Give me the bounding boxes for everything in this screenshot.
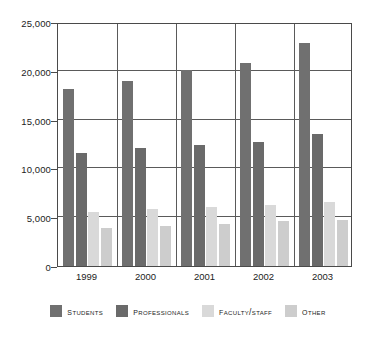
- y-axis-tick-label: 10,000: [3, 164, 51, 175]
- legend-item[interactable]: Students: [50, 305, 103, 317]
- y-axis-tick-label: 0: [3, 262, 51, 273]
- y-axis-tick-label: 15,000: [3, 115, 51, 126]
- y-axis-tick-mark: [51, 267, 57, 268]
- y-axis-tick-mark: [51, 218, 57, 219]
- bar: [135, 148, 146, 266]
- y-axis-tick-label: 5,000: [3, 213, 51, 224]
- x-axis-tick-label: 2002: [253, 271, 274, 282]
- legend-swatch-icon: [50, 305, 62, 317]
- legend-item[interactable]: Professionals: [116, 305, 189, 317]
- y-axis-tick-mark: [51, 23, 57, 24]
- bar-group: [176, 24, 235, 266]
- bar-group: [117, 24, 176, 266]
- bar: [219, 224, 230, 266]
- bar-group: [294, 24, 353, 266]
- bar: [160, 226, 171, 267]
- bar: [253, 142, 264, 266]
- bar: [337, 220, 348, 266]
- bar: [194, 145, 205, 266]
- bar: [324, 202, 335, 266]
- legend-label: Other: [302, 305, 326, 317]
- y-axis-tick-mark: [51, 169, 57, 170]
- x-axis-tick-label: 2000: [135, 271, 156, 282]
- legend-swatch-icon: [285, 305, 297, 317]
- x-axis-tick-label: 2003: [312, 271, 333, 282]
- plot-area: [57, 23, 352, 267]
- y-axis-tick-label: 25,000: [3, 18, 51, 29]
- legend-swatch-icon: [202, 305, 214, 317]
- legend-swatch-icon: [116, 305, 128, 317]
- bar: [147, 209, 158, 266]
- chart-legend: StudentsProfessionalsFaculty/StaffOther: [0, 305, 376, 317]
- legend-item[interactable]: Faculty/Staff: [202, 305, 272, 317]
- bar: [63, 89, 74, 266]
- bar: [181, 70, 192, 266]
- y-axis: 05,00010,00015,00020,00025,000: [0, 0, 51, 346]
- legend-label: Professionals: [133, 305, 189, 317]
- x-axis-tick-label: 1999: [76, 271, 97, 282]
- bar: [206, 207, 217, 266]
- bar: [299, 43, 310, 266]
- bar-group: [58, 24, 117, 266]
- bar: [88, 212, 99, 266]
- bar: [278, 221, 289, 266]
- bar: [265, 205, 276, 266]
- bar: [312, 134, 323, 266]
- bar: [122, 81, 133, 266]
- y-axis-tick-label: 20,000: [3, 66, 51, 77]
- legend-label: Faculty/Staff: [219, 305, 272, 317]
- x-axis-tick-label: 2001: [194, 271, 215, 282]
- legend-item[interactable]: Other: [285, 305, 326, 317]
- bar-chart: 05,00010,00015,00020,00025,000 199920002…: [0, 0, 376, 346]
- bar-group: [235, 24, 294, 266]
- legend-label: Students: [67, 305, 103, 317]
- y-axis-tick-mark: [51, 121, 57, 122]
- bar: [76, 153, 87, 266]
- bar: [101, 228, 112, 266]
- bar: [240, 63, 251, 266]
- y-axis-tick-mark: [51, 72, 57, 73]
